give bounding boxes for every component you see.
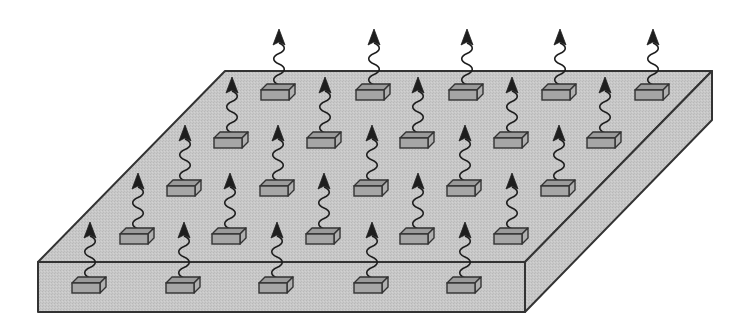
block-front (542, 90, 570, 100)
block-front (635, 90, 663, 100)
block-front (400, 138, 428, 148)
block-front (307, 138, 335, 148)
emitter (542, 29, 576, 100)
arrow-head-icon (554, 29, 566, 45)
block-front (356, 90, 384, 100)
block-front (120, 234, 148, 244)
block-front (260, 186, 288, 196)
block-front (354, 186, 382, 196)
block-front (212, 234, 240, 244)
emitter (635, 29, 669, 100)
emitter (261, 29, 295, 100)
emitter (356, 29, 390, 100)
block-front (447, 283, 475, 293)
block-front (306, 234, 334, 244)
block-front (587, 138, 615, 148)
block-front (259, 283, 287, 293)
slab-emitter-diagram (0, 0, 751, 332)
block-front (400, 234, 428, 244)
diagram-canvas (0, 0, 751, 332)
arrow-head-icon (461, 29, 473, 45)
block-front (447, 186, 475, 196)
block-front (72, 283, 100, 293)
block-front (541, 186, 569, 196)
arrow-head-icon (368, 29, 380, 45)
arrow-head-icon (647, 29, 659, 45)
block-front (494, 138, 522, 148)
block-front (494, 234, 522, 244)
block-front (214, 138, 242, 148)
block-front (261, 90, 289, 100)
block-front (354, 283, 382, 293)
arrow-head-icon (273, 29, 285, 45)
block-front (167, 186, 195, 196)
block-front (449, 90, 477, 100)
emitter (449, 29, 483, 100)
block-front (166, 283, 194, 293)
